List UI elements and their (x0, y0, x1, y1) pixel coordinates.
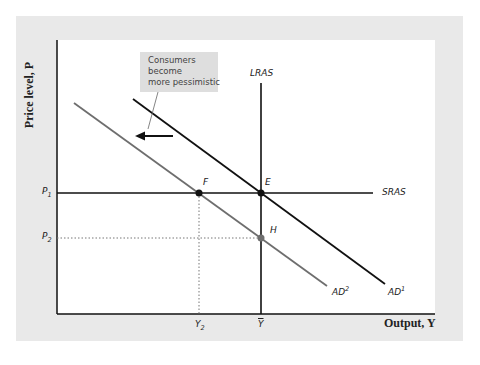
x-axis-label: Output, Y (384, 316, 436, 331)
p1-sub: 1 (47, 191, 51, 199)
ad2-label: AD2 (332, 285, 349, 297)
p2-sub: 2 (47, 236, 51, 244)
y-axis-label-text: Price level, P (22, 62, 37, 128)
point-e-label: E (265, 177, 271, 187)
sras-label: SRAS (382, 187, 406, 197)
arrowhead-left-icon (135, 132, 145, 141)
point-e (258, 190, 265, 197)
callout-line-3: more pessimistic (148, 77, 218, 88)
p1-tick-label: P1 (42, 186, 52, 199)
y2-tick-label: Y2 (195, 319, 205, 332)
point-h (258, 235, 265, 242)
callout-line-2: become (148, 66, 218, 77)
p2-tick-label: P2 (42, 231, 52, 244)
ad1-label-sup: 1 (401, 285, 405, 293)
ad1-label-text: AD (388, 287, 401, 297)
ad2-label-text: AD (332, 287, 345, 297)
y2-sub: 2 (201, 324, 205, 332)
annotation-callout: Consumers become more pessimistic (140, 52, 218, 92)
chart-svg (0, 0, 480, 365)
point-f-label: F (203, 177, 208, 187)
lras-label: LRAS (250, 68, 273, 78)
callout-line-1: Consumers (148, 55, 218, 66)
point-h-label: H (270, 225, 277, 235)
point-f (196, 190, 203, 197)
ad2-label-sup: 2 (345, 285, 349, 293)
ad1-label: AD1 (388, 285, 405, 297)
y-axis-label: Price level, P (16, 40, 42, 150)
ybar-tick-label: Y (258, 319, 264, 329)
